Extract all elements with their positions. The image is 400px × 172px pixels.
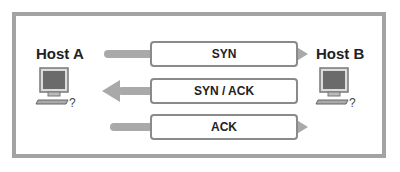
host-b-label: Host B	[316, 45, 364, 62]
host-a-label: Host A	[36, 45, 84, 62]
host-b-computer-icon: ?	[312, 66, 358, 112]
synack-arrow-head-icon	[102, 80, 120, 102]
host-a-computer-icon: ?	[32, 66, 78, 112]
synack-message-box: SYN / ACK	[150, 78, 298, 104]
ack-message-box: ACK	[150, 114, 298, 140]
syn-message-box: SYN	[150, 41, 298, 67]
svg-text:?: ?	[69, 96, 76, 110]
svg-text:?: ?	[349, 96, 356, 110]
